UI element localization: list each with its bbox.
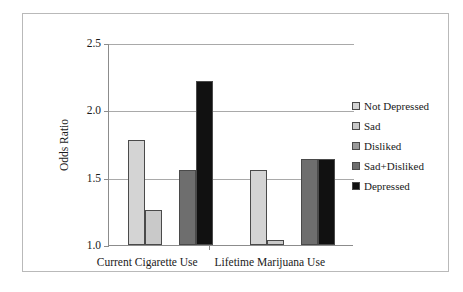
odds-ratio-bar-chart: Odds Ratio 1.01.52.02.5 Current Cigarett… <box>0 0 463 292</box>
legend-item-label: Sad <box>364 121 381 132</box>
x-axis-group-label: Current Cigarette Use <box>86 256 209 268</box>
x-axis-divider-tick <box>209 246 210 250</box>
legend-item: Sad <box>352 116 448 136</box>
legend-item-label: Disliked <box>364 141 401 152</box>
x-axis-group-label: Lifetime Marijuana Use <box>209 256 332 268</box>
y-axis-title: Odds Ratio <box>58 119 70 171</box>
legend-item: Sad+Disliked <box>352 156 448 176</box>
bar <box>267 240 284 245</box>
legend-item: Disliked <box>352 136 448 156</box>
legend-item-label: Not Depressed <box>364 101 429 112</box>
legend-swatch-icon <box>352 182 360 190</box>
plot-area: 1.01.52.02.5 <box>108 44 353 246</box>
y-axis-tick-label: 1.5 <box>87 173 101 185</box>
legend-item: Depressed <box>352 176 448 196</box>
y-axis-tick <box>104 111 109 112</box>
legend-item-label: Sad+Disliked <box>364 161 424 172</box>
bar <box>250 170 267 245</box>
y-axis-tick <box>104 246 109 247</box>
bar <box>318 159 335 245</box>
gridline <box>109 111 354 112</box>
y-axis-tick-label: 2.5 <box>87 38 101 50</box>
bar <box>145 210 162 245</box>
gridline <box>109 44 354 45</box>
bar <box>128 140 145 245</box>
legend-swatch-icon <box>352 102 360 110</box>
bar <box>196 81 213 245</box>
y-axis-tick-label: 2.0 <box>87 106 101 118</box>
y-axis-tick <box>104 179 109 180</box>
legend-swatch-icon <box>352 142 360 150</box>
y-axis-tick-label: 1.0 <box>87 240 101 252</box>
y-axis-tick <box>104 44 109 45</box>
legend-swatch-icon <box>352 162 360 170</box>
legend-swatch-icon <box>352 122 360 130</box>
legend-item-label: Depressed <box>364 181 410 192</box>
bar <box>179 170 196 245</box>
legend-item: Not Depressed <box>352 96 448 116</box>
chart-legend: Not DepressedSadDislikedSad+DislikedDepr… <box>352 96 448 196</box>
bar <box>301 159 318 245</box>
